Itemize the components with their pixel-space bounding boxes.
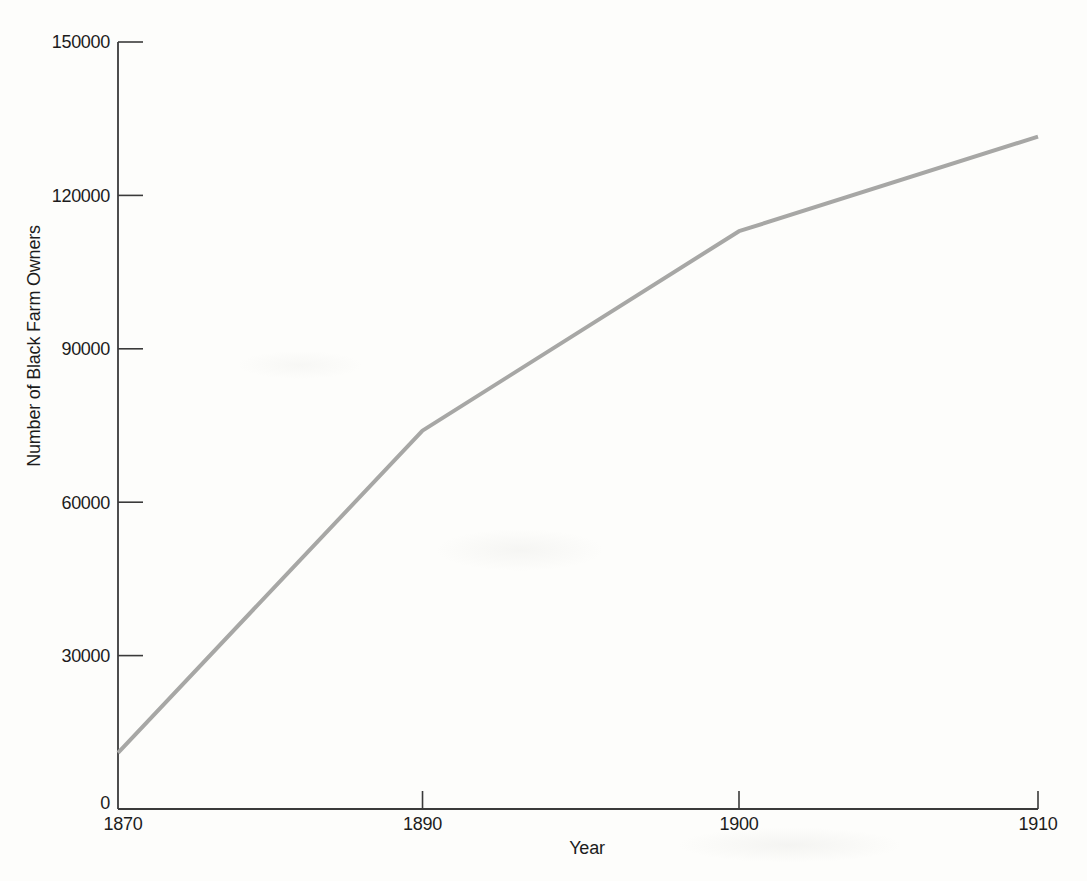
y-tick-label: 30000 xyxy=(61,646,110,666)
series-line-black-farm-owners xyxy=(118,137,1038,753)
y-axis-title: Number of Black Farm Owners xyxy=(24,225,45,467)
x-tick-label: 1900 xyxy=(720,814,759,834)
line-chart: 0300006000090000120000150000187018901900… xyxy=(0,0,1087,881)
y-tick-label: 60000 xyxy=(61,493,110,513)
y-tick-label: 120000 xyxy=(52,186,111,206)
x-tick-label: 1870 xyxy=(104,814,143,834)
x-tick-label: 1890 xyxy=(403,814,442,834)
x-tick-label: 1910 xyxy=(1019,814,1058,834)
chart-canvas: 0300006000090000120000150000187018901900… xyxy=(0,0,1087,881)
y-tick-label: 0 xyxy=(100,793,110,813)
x-axis-title: Year xyxy=(569,838,605,859)
y-tick-label: 150000 xyxy=(52,32,111,52)
y-tick-label: 90000 xyxy=(61,339,110,359)
